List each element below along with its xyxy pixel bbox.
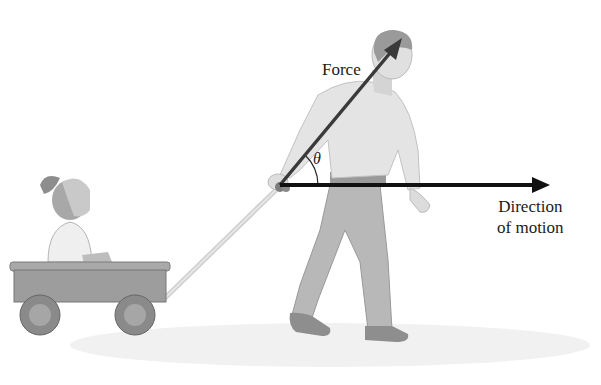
wagon [10, 176, 170, 335]
girl [40, 176, 112, 264]
direction-label-line2: of motion [497, 217, 564, 238]
wagon-handle [165, 188, 278, 298]
wagon-wheel-front [20, 295, 60, 335]
wagon-wheel-rear [115, 295, 155, 335]
illustration [0, 0, 601, 385]
direction-of-motion-label: Direction of motion [497, 196, 564, 238]
physics-figure: Force θ Direction of motion [0, 0, 601, 385]
direction-label-line1: Direction [497, 196, 564, 217]
angle-theta-label: θ [313, 150, 321, 168]
force-label: Force [322, 60, 361, 80]
